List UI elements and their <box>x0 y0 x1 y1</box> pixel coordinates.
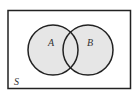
set-a-label: A <box>47 37 55 48</box>
venn-diagram: A B S <box>0 0 138 93</box>
universal-set-label: S <box>14 76 19 87</box>
set-b-label: B <box>87 37 93 48</box>
